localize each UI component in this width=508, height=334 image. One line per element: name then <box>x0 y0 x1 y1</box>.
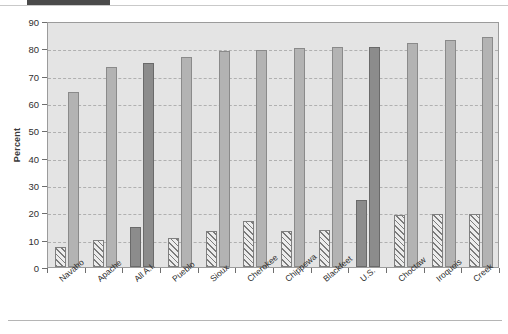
bar-chart-figure: Percent 0102030405060708090 NavahoApache… <box>0 0 508 334</box>
y-axis-tick-label: 60 <box>9 99 39 110</box>
y-axis-tick-mark <box>42 268 47 269</box>
x-axis-tick-mark <box>235 268 236 273</box>
bar <box>219 51 230 267</box>
y-axis-tick-label: 10 <box>9 235 39 246</box>
x-axis-tick-mark <box>85 268 86 273</box>
x-axis-tick-mark <box>47 268 48 273</box>
x-axis-tick-mark <box>198 268 199 273</box>
bar <box>256 50 267 267</box>
bar <box>143 63 154 267</box>
x-axis-tick-mark <box>424 268 425 273</box>
y-axis-tick-label: 30 <box>9 181 39 192</box>
bar <box>93 240 104 267</box>
bar <box>130 227 141 267</box>
x-axis-category-label: U.S. <box>358 265 377 283</box>
bar <box>407 43 418 267</box>
bar <box>482 37 493 267</box>
bar <box>319 230 330 267</box>
y-axis-title: Percent <box>12 115 22 175</box>
gridline <box>48 50 498 51</box>
x-axis-tick-mark <box>273 268 274 273</box>
bar <box>394 215 405 267</box>
bar <box>356 200 367 267</box>
bar <box>181 57 192 267</box>
x-axis-tick-mark <box>160 268 161 273</box>
x-axis-tick-mark <box>386 268 387 273</box>
x-axis-tick-mark <box>122 268 123 273</box>
bar <box>469 214 480 267</box>
bar <box>55 247 66 268</box>
bar <box>206 231 217 267</box>
x-axis-tick-mark <box>499 268 500 273</box>
x-axis-tick-mark <box>461 268 462 273</box>
x-axis-tick-mark <box>348 268 349 273</box>
bar <box>332 47 343 267</box>
bar <box>294 48 305 267</box>
y-axis-tick-label: 90 <box>9 17 39 28</box>
bar <box>369 47 380 267</box>
bar <box>432 214 443 267</box>
y-axis-tick-label: 0 <box>9 263 39 274</box>
plot-area <box>47 22 499 268</box>
bar <box>168 238 179 267</box>
bar <box>68 92 79 267</box>
y-axis-tick-label: 80 <box>9 44 39 55</box>
bar <box>281 231 292 267</box>
bar <box>243 221 254 267</box>
bar <box>445 40 456 267</box>
y-axis-tick-label: 70 <box>9 71 39 82</box>
y-axis-tick-label: 20 <box>9 208 39 219</box>
x-axis-tick-mark <box>311 268 312 273</box>
bar <box>106 67 117 267</box>
